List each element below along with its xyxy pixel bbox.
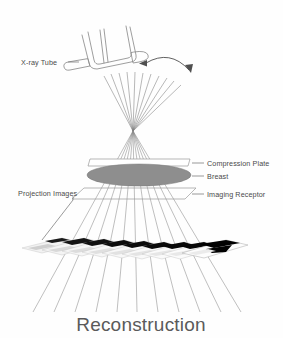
label-imaging-receptor: Imaging Receptor xyxy=(207,190,266,199)
xray-beam-upper xyxy=(104,72,181,131)
projection-image-stack xyxy=(22,238,248,259)
projection-images-leader xyxy=(42,196,73,240)
xray-tube-icon xyxy=(64,26,148,70)
imaging-receptor xyxy=(72,188,196,199)
tomosynthesis-diagram: X-ray Tube Compression Plate Breast Imag… xyxy=(0,0,283,338)
label-projection-images: Projection Images xyxy=(18,189,78,198)
label-breast: Breast xyxy=(207,172,228,181)
page-title: Reconstruction xyxy=(76,314,206,335)
rotation-arrow-icon xyxy=(139,57,193,73)
breast-shape xyxy=(87,164,191,186)
label-xray-tube: X-ray Tube xyxy=(21,58,57,67)
label-compression-plate: Compression Plate xyxy=(207,159,269,168)
